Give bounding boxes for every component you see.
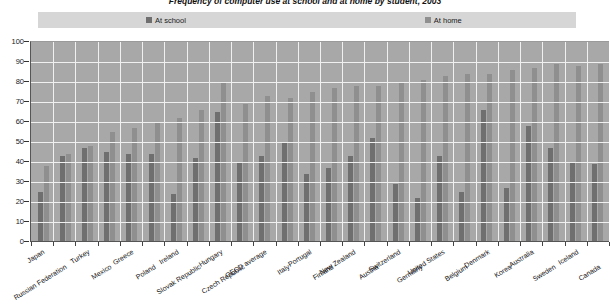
vertical-gridline (453, 42, 454, 242)
bar-at-school (526, 126, 531, 242)
chart-page: Frequency of computer use at school and … (0, 0, 610, 305)
vertical-gridline (53, 42, 54, 242)
bar-at-school (437, 156, 442, 242)
bar-at-home (376, 86, 381, 242)
vertical-gridline (164, 42, 165, 242)
vertical-gridline (253, 42, 254, 242)
y-axis-tick-label: 70 (16, 98, 24, 106)
bar-at-school (38, 192, 43, 242)
bar-at-home (510, 70, 515, 242)
bar-at-home (487, 74, 492, 242)
vertical-gridline (542, 42, 543, 242)
bar-at-school (104, 152, 109, 242)
x-axis-labels: JapanRussian FederationTurkeyMexicoGreec… (0, 246, 610, 305)
y-axis-tick-label: 20 (16, 198, 24, 206)
legend-swatch-at-school (146, 17, 152, 23)
bar-at-home (310, 92, 315, 242)
bar-at-school (326, 168, 331, 242)
y-axis-tick-mark (24, 241, 29, 242)
vertical-gridline (142, 42, 143, 242)
y-axis-tick-mark (24, 181, 29, 182)
bar-at-school (393, 184, 398, 242)
bar-at-home (465, 74, 470, 242)
vertical-gridline (387, 42, 388, 242)
y-axis-tick-label: 80 (16, 78, 24, 86)
vertical-gridline (431, 42, 432, 242)
bar-at-school (415, 198, 420, 242)
bar-at-home (554, 64, 559, 242)
plot-area (30, 41, 609, 242)
x-axis-label: Turkey (0, 248, 90, 305)
bar-at-school (370, 138, 375, 242)
legend-label-at-home: At home (434, 16, 462, 25)
vertical-gridline (342, 42, 343, 242)
y-axis-tick-label: 10 (16, 218, 24, 226)
legend-item-at-home: At home (425, 16, 462, 25)
vertical-gridline (498, 42, 499, 242)
vertical-gridline (298, 42, 299, 242)
y-axis-tick-mark (24, 161, 29, 162)
y-axis-tick-mark (24, 101, 29, 102)
chart-title: Frequency of computer use at school and … (0, 0, 610, 7)
legend-item-at-school: At school (146, 16, 186, 25)
bar-at-home (44, 166, 49, 242)
bar-at-school (282, 142, 287, 242)
bar-at-school (126, 154, 131, 242)
bar-at-home (265, 96, 270, 242)
bar-at-school (348, 156, 353, 242)
bar-at-home (132, 128, 137, 242)
y-axis-tick-mark (24, 201, 29, 202)
bar-at-home (177, 118, 182, 242)
bar-at-school (193, 158, 198, 242)
bar-at-school (304, 174, 309, 242)
vertical-gridline (364, 42, 365, 242)
vertical-gridline (231, 42, 232, 242)
y-axis-tick-mark (24, 41, 29, 42)
vertical-gridline (98, 42, 99, 242)
y-axis-tick-label: 50 (16, 138, 24, 146)
bar-at-school (60, 156, 65, 242)
plot-area-wrapper (30, 41, 608, 242)
bar-at-school (259, 156, 264, 242)
y-axis-tick-mark (24, 61, 29, 62)
vertical-gridline (476, 42, 477, 242)
vertical-gridline (587, 42, 588, 242)
bar-at-school (592, 164, 597, 242)
bar-at-home (332, 88, 337, 242)
bar-at-home (576, 66, 581, 242)
vertical-gridline (565, 42, 566, 242)
bar-at-home (421, 80, 426, 242)
legend-label-at-school: At school (155, 16, 186, 25)
bar-at-home (532, 68, 537, 242)
y-axis-tick-label: 40 (16, 158, 24, 166)
vertical-gridline (75, 42, 76, 242)
y-axis-tick-label: 60 (16, 118, 24, 126)
y-axis-tick-label: 90 (16, 58, 24, 66)
vertical-gridline (320, 42, 321, 242)
y-axis-tick-mark (24, 221, 29, 222)
y-axis: 1009080706050403020100 (0, 41, 28, 242)
chart-legend: At school At home (38, 12, 576, 28)
vertical-gridline (520, 42, 521, 242)
bar-at-school (149, 154, 154, 242)
bar-at-home (288, 98, 293, 242)
bar-at-home (598, 64, 603, 242)
bar-at-home (110, 132, 115, 242)
bar-at-home (443, 76, 448, 242)
vertical-gridline (187, 42, 188, 242)
bar-at-school (504, 188, 509, 242)
bar-at-home (354, 86, 359, 242)
y-axis-tick-mark (24, 81, 29, 82)
bar-at-home (88, 146, 93, 242)
legend-swatch-at-home (425, 17, 431, 23)
y-axis-tick-mark (24, 121, 29, 122)
y-axis-tick-mark (24, 141, 29, 142)
vertical-gridline (276, 42, 277, 242)
y-axis-tick-label: 30 (16, 178, 24, 186)
y-axis-tick-label: 100 (11, 38, 24, 46)
vertical-gridline (120, 42, 121, 242)
bar-at-school (459, 192, 464, 242)
bar-at-home (66, 154, 71, 242)
vertical-gridline (209, 42, 210, 242)
vertical-gridline (409, 42, 410, 242)
